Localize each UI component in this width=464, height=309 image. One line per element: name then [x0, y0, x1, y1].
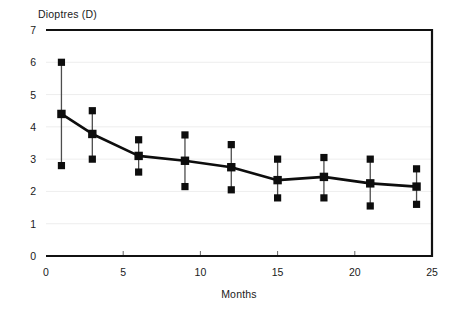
error-bar-cap — [228, 186, 235, 193]
chart-background — [0, 0, 464, 309]
x-tick-label: 25 — [426, 266, 438, 278]
error-bar-cap — [228, 141, 235, 148]
y-tick-label: 6 — [30, 56, 36, 68]
x-tick-label: 0 — [43, 266, 49, 278]
error-bar-cap — [181, 183, 188, 190]
data-marker — [320, 173, 328, 181]
x-axis-title: Months — [221, 288, 257, 300]
x-tick-label: 20 — [349, 266, 361, 278]
error-bar-cap — [135, 168, 142, 175]
error-bar-cap — [58, 59, 65, 66]
error-bar-cap — [274, 194, 281, 201]
error-bar-cap — [58, 162, 65, 169]
data-marker — [273, 176, 281, 184]
data-marker — [412, 182, 420, 190]
x-tick-label: 5 — [120, 266, 126, 278]
error-bar-cap — [367, 202, 374, 209]
error-bar-cap — [320, 154, 327, 161]
error-bar-cap — [320, 194, 327, 201]
data-marker — [181, 157, 189, 165]
error-bar-cap — [181, 131, 188, 138]
y-tick-label: 1 — [30, 218, 36, 230]
y-tick-label: 0 — [30, 250, 36, 262]
y-tick-label: 7 — [30, 24, 36, 36]
y-tick-label: 5 — [30, 89, 36, 101]
data-marker — [366, 179, 374, 187]
error-bar-cap — [135, 136, 142, 143]
error-bar-cap — [274, 156, 281, 163]
error-bar-cap — [413, 201, 420, 208]
line-chart-with-error-bars: 01234567 0510152025 Dioptres (D) Months — [0, 0, 464, 309]
y-tick-label: 4 — [30, 121, 36, 133]
chart-figure: 01234567 0510152025 Dioptres (D) Months — [0, 0, 464, 309]
x-tick-label: 15 — [272, 266, 284, 278]
data-marker — [57, 110, 65, 118]
data-marker — [134, 152, 142, 160]
error-bar-cap — [89, 156, 96, 163]
x-tick-label: 10 — [195, 266, 207, 278]
y-tick-label: 3 — [30, 153, 36, 165]
error-bar-cap — [89, 107, 96, 114]
y-tick-label: 2 — [30, 185, 36, 197]
error-bar-cap — [413, 165, 420, 172]
data-marker — [88, 130, 96, 138]
error-bar-cap — [367, 156, 374, 163]
data-marker — [227, 163, 235, 171]
y-axis-title: Dioptres (D) — [38, 8, 97, 20]
